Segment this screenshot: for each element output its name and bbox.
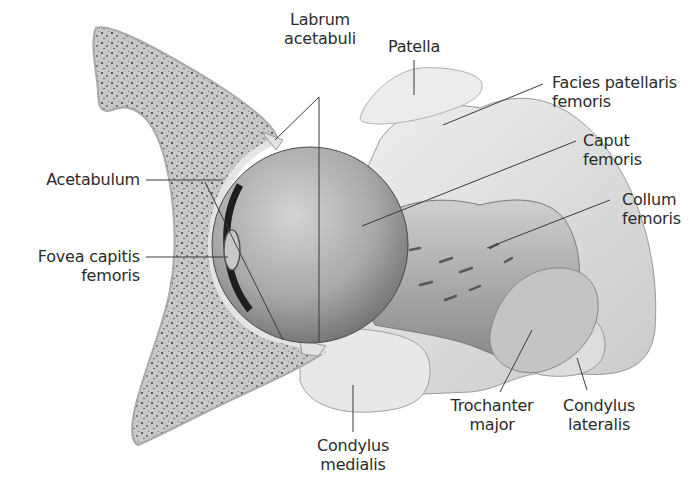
label-line: Patella — [382, 37, 446, 56]
label-acetabulum: Acetabulum — [20, 170, 140, 189]
label-line: Condylus — [556, 396, 642, 415]
label-fovea-capitis-femoris: Fovea capitis femoris — [10, 247, 140, 285]
label-line: femoris — [552, 92, 677, 111]
label-line: Facies patellaris — [552, 73, 677, 92]
label-trochanter-major: Trochanter major — [440, 396, 544, 434]
label-line: femoris — [622, 209, 681, 228]
label-caput-femoris: Caput femoris — [583, 131, 642, 169]
label-condylus-lateralis: Condylus lateralis — [556, 396, 642, 434]
label-facies-patellaris-femoris: Facies patellaris femoris — [552, 73, 677, 111]
label-line: femoris — [583, 150, 642, 169]
label-labrum-acetabuli: Labrum acetabuli — [273, 10, 367, 48]
label-line: Condylus — [308, 436, 398, 455]
label-line: Collum — [622, 190, 681, 209]
caput-femoris — [212, 147, 408, 343]
label-patella: Patella — [382, 37, 446, 56]
label-line: lateralis — [556, 415, 642, 434]
label-line: major — [440, 415, 544, 434]
label-line: acetabuli — [273, 29, 367, 48]
label-condylus-medialis: Condylus medialis — [308, 436, 398, 474]
label-line: Labrum — [273, 10, 367, 29]
label-collum-femoris: Collum femoris — [622, 190, 681, 228]
label-line: Trochanter — [440, 396, 544, 415]
label-line: Caput — [583, 131, 642, 150]
label-line: Fovea capitis — [10, 247, 140, 266]
label-line: medialis — [308, 455, 398, 474]
label-line: femoris — [10, 266, 140, 285]
anatomy-figure: Labrum acetabuli Patella Facies patellar… — [0, 0, 693, 493]
label-line: Acetabulum — [20, 170, 140, 189]
